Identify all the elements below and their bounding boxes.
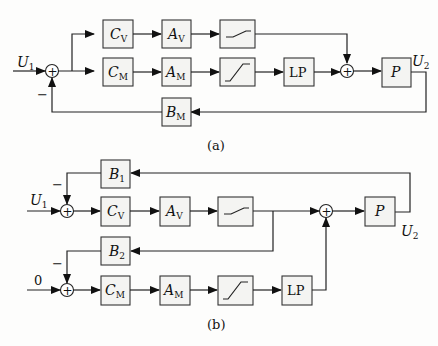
block-cv-a: CV: [103, 20, 133, 48]
svg-text:+: +: [322, 205, 332, 219]
output-label-u2-b: U2: [401, 223, 419, 241]
minus-sign-b1: −: [52, 177, 63, 192]
block-lp-b: LP: [282, 276, 312, 305]
block-cv-b: CV: [101, 197, 130, 226]
block-av-a: AV: [162, 20, 191, 48]
input-label-u1-b: U1: [30, 192, 48, 210]
block-diagram-figure: U1 + − CV AV CM: [0, 0, 438, 346]
minus-sign-a: −: [37, 87, 48, 102]
diagram-a: U1 + − CV AV CM: [13, 20, 430, 153]
block-av-b: AV: [160, 197, 190, 226]
block-am-a: AM: [162, 58, 191, 86]
block-lp-a: LP: [284, 58, 314, 86]
svg-text:+: +: [48, 65, 58, 79]
caption-a: (a): [207, 138, 225, 153]
summing-junction-b-main: +: [320, 205, 333, 219]
block-bm-a: BM: [162, 98, 191, 126]
diagram-b: B1 − U1 + CV AV: [27, 160, 419, 332]
svg-text:LP: LP: [287, 283, 305, 298]
input-label-u1-a: U1: [17, 54, 35, 72]
block-cm-b: CM: [101, 276, 130, 305]
block-p-b: P: [365, 197, 395, 226]
block-b2-b: B2: [101, 237, 130, 265]
block-b1-b: B1: [101, 160, 130, 188]
saturation-block-gentle-a: [220, 20, 255, 48]
minus-sign-b2: −: [52, 256, 63, 271]
zero-input-label: 0: [34, 273, 42, 288]
svg-text:P: P: [390, 64, 401, 80]
saturation-block-steep-b: [218, 276, 253, 305]
block-am-b: AM: [160, 276, 190, 305]
svg-text:+: +: [63, 284, 73, 298]
svg-text:LP: LP: [289, 65, 307, 80]
saturation-block-gentle-b: [218, 197, 253, 226]
svg-text:+: +: [343, 65, 353, 79]
summing-junction-b1: +: [61, 205, 74, 219]
saturation-block-steep-a: [220, 58, 255, 86]
svg-text:+: +: [63, 205, 73, 219]
summing-junction-a1: +: [46, 65, 59, 79]
caption-b: (b): [207, 317, 225, 332]
summing-junction-a2: +: [341, 65, 354, 79]
svg-text:P: P: [374, 203, 385, 219]
block-p-a: P: [382, 58, 411, 87]
summing-junction-b2: +: [61, 284, 74, 298]
output-label-u2-a: U2: [412, 53, 430, 71]
block-cm-a: CM: [103, 58, 133, 86]
